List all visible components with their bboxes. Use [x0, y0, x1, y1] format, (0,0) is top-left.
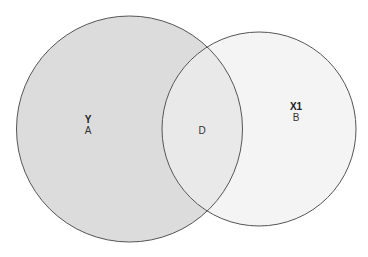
intersection-label: D — [198, 125, 205, 136]
set-b-title: X1 — [290, 101, 303, 112]
venn-diagram: Y A D X1 B — [0, 0, 368, 257]
set-b-label: B — [293, 112, 300, 123]
set-a-label: A — [85, 125, 92, 136]
set-a-title: Y — [85, 114, 92, 125]
